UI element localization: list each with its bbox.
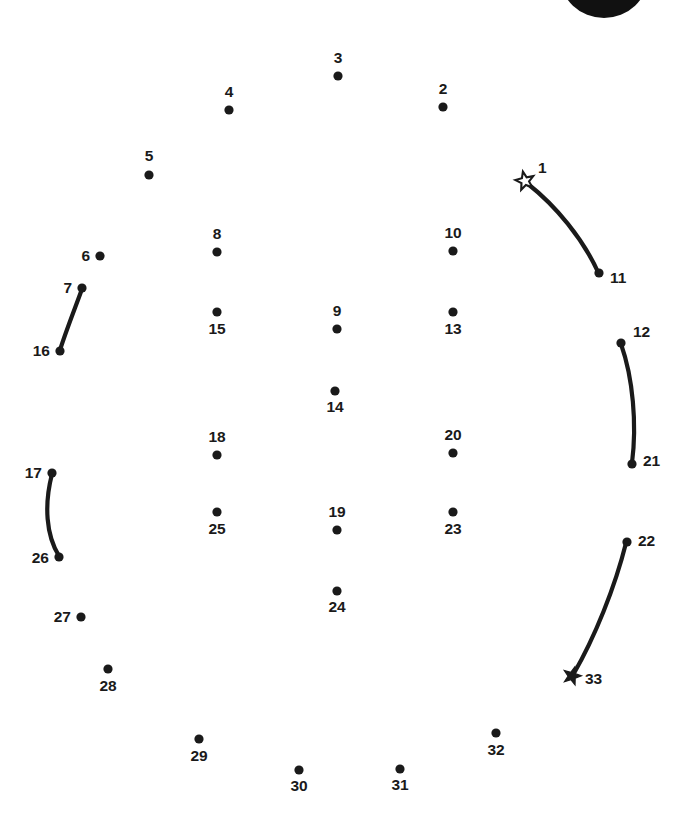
dot-number-label-11: 11 xyxy=(610,269,627,286)
puzzle-dot-27[interactable] xyxy=(76,612,85,621)
puzzle-dot-7[interactable] xyxy=(77,283,86,292)
puzzle-dot-26[interactable] xyxy=(54,552,63,561)
puzzle-dot-16[interactable] xyxy=(55,346,64,355)
dot-number-label-30: 30 xyxy=(290,777,307,794)
dot-number-label-29: 29 xyxy=(190,747,208,764)
dot-number-label-3: 3 xyxy=(334,49,343,66)
puzzle-dot-12[interactable] xyxy=(616,338,625,347)
dot-number-label-1: 1 xyxy=(538,159,547,176)
dot-number-label-2: 2 xyxy=(439,80,448,97)
guide-curve-12-to-21 xyxy=(621,344,634,463)
dot-number-label-17: 17 xyxy=(25,464,42,481)
guide-curve-17-to-26 xyxy=(47,474,59,556)
puzzle-dot-30[interactable] xyxy=(294,765,303,774)
puzzle-dot-3[interactable] xyxy=(333,71,342,80)
top-cropped-shape xyxy=(560,0,648,18)
dot-number-label-6: 6 xyxy=(81,247,90,264)
dot-number-label-20: 20 xyxy=(444,426,461,443)
dot-number-label-28: 28 xyxy=(99,677,117,694)
guide-curve-1-to-11 xyxy=(528,184,598,272)
dot-number-label-18: 18 xyxy=(208,428,226,445)
puzzle-dot-19[interactable] xyxy=(332,525,341,534)
puzzle-dot-18[interactable] xyxy=(212,450,221,459)
puzzle-dot-25[interactable] xyxy=(212,507,221,516)
puzzle-dot-14[interactable] xyxy=(330,386,339,395)
dot-number-label-26: 26 xyxy=(32,549,50,566)
dot-number-label-4: 4 xyxy=(225,83,234,100)
puzzle-dot-23[interactable] xyxy=(448,507,457,516)
dot-labels-group: 1234567891011121314151617181920212223242… xyxy=(25,49,661,794)
dot-number-label-32: 32 xyxy=(487,741,504,758)
puzzle-canvas: 1234567891011121314151617181920212223242… xyxy=(0,0,686,819)
guide-curve-22-to-33 xyxy=(573,543,626,675)
dot-number-label-15: 15 xyxy=(208,320,226,337)
dot-number-label-8: 8 xyxy=(213,225,222,242)
puzzle-dot-8[interactable] xyxy=(212,247,221,256)
puzzle-dot-29[interactable] xyxy=(194,734,203,743)
dot-number-label-33: 33 xyxy=(585,670,603,687)
puzzle-dot-32[interactable] xyxy=(491,728,500,737)
puzzle-dot-4[interactable] xyxy=(224,105,233,114)
dot-number-label-31: 31 xyxy=(391,776,409,793)
dot-number-label-23: 23 xyxy=(444,520,462,537)
dot-number-label-10: 10 xyxy=(444,224,461,241)
dot-number-label-25: 25 xyxy=(208,520,226,537)
dot-number-label-14: 14 xyxy=(326,398,344,415)
puzzle-dot-24[interactable] xyxy=(332,586,341,595)
dot-number-label-9: 9 xyxy=(333,302,342,319)
puzzle-dot-20[interactable] xyxy=(448,448,457,457)
guide-curve-7-to-16 xyxy=(60,289,82,350)
dot-number-label-7: 7 xyxy=(63,279,72,296)
puzzle-dot-10[interactable] xyxy=(448,246,457,255)
puzzle-dot-15[interactable] xyxy=(212,307,221,316)
puzzle-dot-31[interactable] xyxy=(395,764,404,773)
puzzle-dot-2[interactable] xyxy=(438,102,447,111)
puzzle-dot-22[interactable] xyxy=(622,537,631,546)
start-star-marker-1[interactable] xyxy=(515,172,533,190)
puzzle-dot-9[interactable] xyxy=(332,324,341,333)
dot-number-label-5: 5 xyxy=(145,147,154,164)
dot-number-label-19: 19 xyxy=(328,503,346,520)
dot-number-label-16: 16 xyxy=(33,342,51,359)
puzzle-dot-13[interactable] xyxy=(448,307,457,316)
puzzle-dot-11[interactable] xyxy=(594,268,603,277)
puzzle-dot-5[interactable] xyxy=(144,170,153,179)
puzzle-dot-28[interactable] xyxy=(103,664,112,673)
puzzle-dot-17[interactable] xyxy=(47,468,56,477)
dot-number-label-21: 21 xyxy=(643,452,661,469)
connect-the-dots-page: 1234567891011121314151617181920212223242… xyxy=(0,0,686,819)
dot-number-label-22: 22 xyxy=(638,532,655,549)
dot-number-label-24: 24 xyxy=(328,598,346,615)
dots-group xyxy=(47,71,636,774)
puzzle-dot-21[interactable] xyxy=(627,459,636,468)
dot-number-label-12: 12 xyxy=(633,323,650,340)
end-star-marker-33[interactable] xyxy=(564,667,581,685)
puzzle-dot-6[interactable] xyxy=(95,251,104,260)
dot-number-label-27: 27 xyxy=(54,608,71,625)
dot-number-label-13: 13 xyxy=(444,320,462,337)
